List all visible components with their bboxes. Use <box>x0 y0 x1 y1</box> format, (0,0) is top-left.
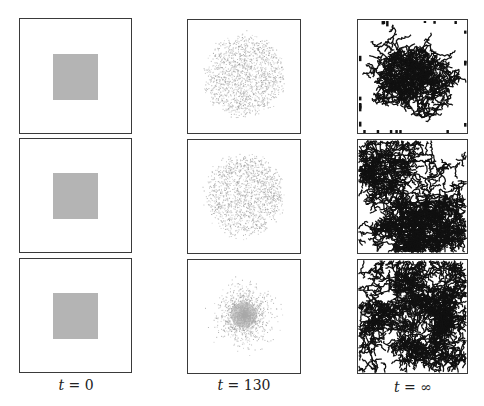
initial-square <box>53 173 98 219</box>
panel-row2-t130 <box>187 139 301 254</box>
particle-cloud <box>188 260 300 373</box>
label-tinf: t = ∞ <box>343 379 483 395</box>
initial-square <box>53 293 98 339</box>
particle-cloud <box>188 140 300 253</box>
label-t0: t = 0 <box>6 377 146 393</box>
panel-row3-t130 <box>187 259 301 374</box>
panel-row1-t0 <box>19 18 132 134</box>
dendritic-cluster <box>358 260 467 373</box>
time-value: = ∞ <box>400 379 432 395</box>
panel-row1-tinf <box>357 19 468 134</box>
panel-row2-tinf <box>357 139 468 254</box>
particle-cloud <box>188 20 300 133</box>
time-value: = 0 <box>64 377 94 393</box>
panel-row1-t130 <box>187 19 301 134</box>
dendritic-cluster <box>358 140 467 253</box>
initial-square <box>53 54 98 100</box>
time-value: = 130 <box>223 377 270 393</box>
dendritic-cluster <box>358 20 467 133</box>
panel-row2-t0 <box>19 138 132 253</box>
panel-row3-tinf <box>357 259 468 374</box>
label-t130: t = 130 <box>174 377 314 393</box>
panel-row3-t0 <box>19 258 132 373</box>
